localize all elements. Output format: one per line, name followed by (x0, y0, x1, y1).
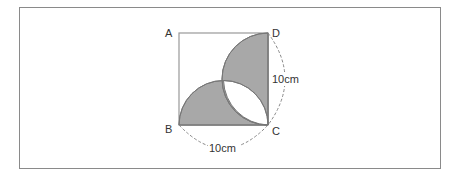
vertex-d-label: D (272, 27, 280, 39)
vertex-a-label: A (165, 27, 173, 39)
geometry-figure: A D B C 10cm 10cm (0, 0, 457, 179)
vertex-c-label: C (272, 125, 280, 137)
dimension-label-bc: 10cm (209, 142, 236, 154)
dimension-label-cd: 10cm (272, 73, 299, 85)
vertex-b-label: B (165, 123, 172, 135)
